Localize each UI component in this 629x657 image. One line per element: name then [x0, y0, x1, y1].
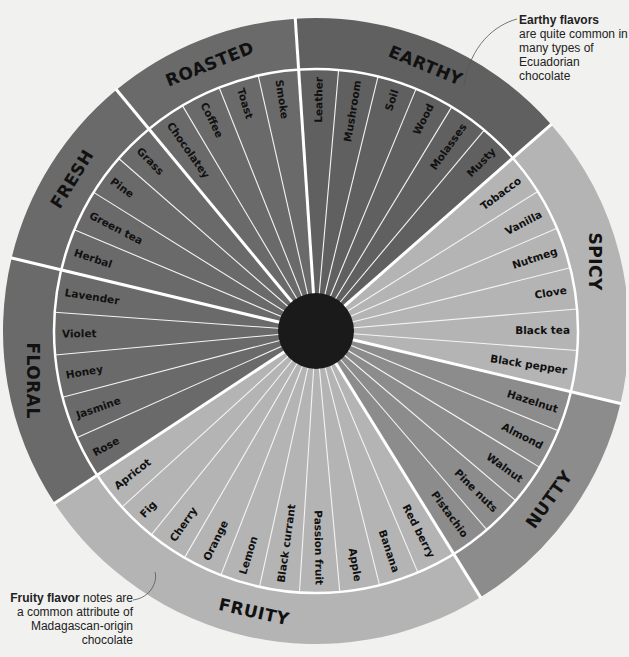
fruity-annotation-title: Fruity flavor [10, 591, 79, 605]
center-hub [278, 293, 354, 369]
earthy-annotation-title: Earthy flavors [519, 13, 599, 27]
flavor-label-leather: Leather [312, 76, 324, 123]
category-label-spicy: SPICY [585, 233, 605, 292]
flavor-label-black-tea: Black tea [515, 324, 570, 336]
fruity-annotation: Fruity flavor notes are a common attribu… [8, 591, 133, 647]
category-label-floral: FLORAL [23, 342, 43, 418]
earthy-annotation-text: are quite common in many types of Ecuado… [519, 27, 628, 83]
flavor-label-violet: Violet [62, 327, 97, 339]
flavor-label-passion-fruit: Passion fruit [312, 510, 325, 585]
earthy-annotation: Earthy flavors are quite common in many … [519, 13, 629, 83]
